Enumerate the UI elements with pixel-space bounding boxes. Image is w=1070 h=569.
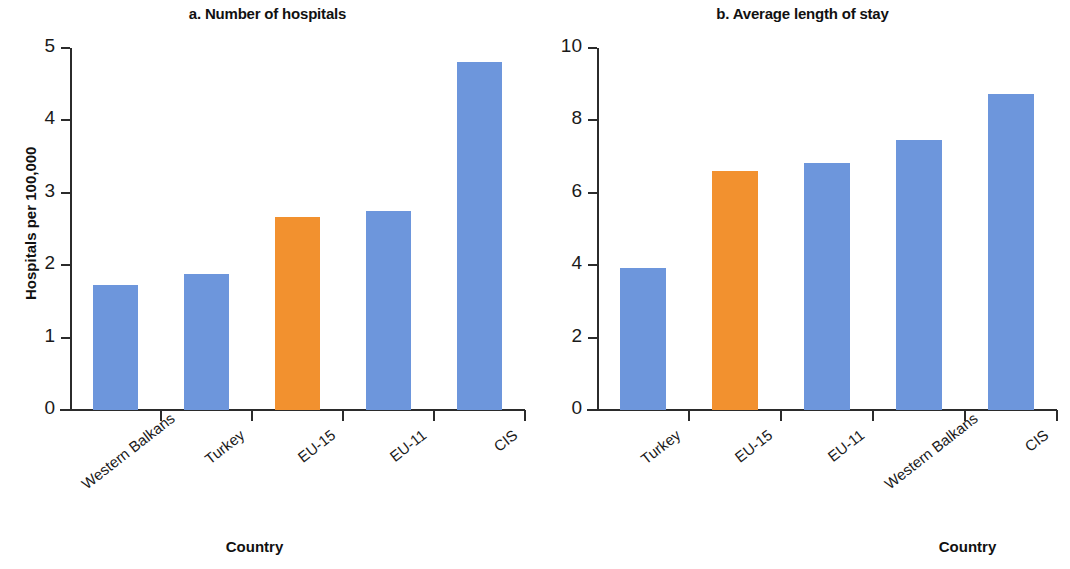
y-axis-tick-label: 10	[561, 36, 582, 55]
y-axis-tick-label: 4	[571, 253, 582, 272]
y-axis-tick: 10	[588, 47, 597, 49]
x-axis-label: Western Balkans	[78, 426, 156, 492]
bar-cis	[988, 94, 1034, 410]
y-axis-tick: 4	[61, 119, 70, 121]
y-axis-tick-label: 2	[571, 326, 582, 345]
y-axis-tick-label: 8	[571, 108, 582, 127]
x-axis-label: EU-15	[697, 426, 775, 492]
panel-a-plot-area: 012345Western BalkansTurkeyEU-15EU-11CIS	[70, 48, 525, 410]
y-axis-tick: 5	[61, 47, 70, 49]
bar-turkey	[620, 268, 666, 410]
x-axis-label: Turkey	[169, 426, 247, 492]
x-axis-label: CIS	[973, 426, 1051, 492]
x-axis-label: CIS	[442, 426, 520, 492]
panel-b-y-axis-line	[597, 48, 599, 410]
y-axis-tick: 2	[61, 264, 70, 266]
x-axis-tick	[342, 410, 344, 421]
x-axis-tick	[872, 410, 874, 421]
x-axis-tick	[1056, 410, 1058, 421]
y-axis-tick-label: 0	[571, 398, 582, 417]
panel-b-x-axis-title: Country	[535, 538, 1070, 555]
y-axis-tick: 3	[61, 192, 70, 194]
x-axis-tick	[251, 410, 253, 421]
y-axis-tick: 2	[588, 337, 597, 339]
bar-western-balkans	[93, 285, 139, 410]
y-axis-tick-label: 2	[44, 253, 55, 272]
x-axis-label: EU-15	[260, 426, 338, 492]
x-axis-tick	[433, 410, 435, 421]
x-axis-label: Western Balkans	[881, 426, 959, 492]
bar-eu-11	[366, 211, 412, 410]
x-axis-tick	[524, 410, 526, 421]
y-axis-tick: 4	[588, 264, 597, 266]
bar-eu-15	[275, 217, 321, 410]
y-axis-tick-label: 0	[44, 398, 55, 417]
x-axis-label: EU-11	[351, 426, 429, 492]
panel-b-title: b. Average length of stay	[535, 5, 1070, 22]
y-axis-tick-label: 3	[44, 181, 55, 200]
y-axis-tick-label: 4	[44, 108, 55, 127]
figure-two-panel-bar-charts: a. Number of hospitals Hospitals per 100…	[0, 0, 1070, 569]
y-axis-tick: 8	[588, 119, 597, 121]
panel-a-y-axis-title: Hospitals per 100,000	[22, 147, 39, 300]
panel-b-plot-area: 0246810TurkeyEU-15EU-11Western BalkansCI…	[597, 48, 1057, 410]
y-axis-tick: 0	[61, 409, 70, 411]
panel-a-x-axis-title: Country	[0, 538, 535, 555]
bar-western-balkans	[896, 140, 942, 410]
x-axis-label: EU-11	[789, 426, 867, 492]
panel-a-number-of-hospitals: a. Number of hospitals Hospitals per 100…	[0, 0, 535, 569]
bar-eu-11	[804, 163, 850, 410]
y-axis-tick-label: 5	[44, 36, 55, 55]
y-axis-tick-label: 6	[571, 181, 582, 200]
panel-b-average-length-of-stay: b. Average length of stay 0246810TurkeyE…	[535, 0, 1070, 569]
bar-turkey	[184, 274, 230, 410]
y-axis-tick: 1	[61, 337, 70, 339]
y-axis-tick: 6	[588, 192, 597, 194]
x-axis-label: Turkey	[605, 426, 683, 492]
x-axis-tick	[688, 410, 690, 421]
bar-eu-15	[712, 171, 758, 410]
x-axis-tick	[780, 410, 782, 421]
panel-a-y-axis-line	[70, 48, 72, 410]
panel-a-title: a. Number of hospitals	[0, 5, 535, 22]
bar-cis	[457, 62, 503, 410]
y-axis-tick: 0	[588, 409, 597, 411]
y-axis-tick-label: 1	[44, 326, 55, 345]
